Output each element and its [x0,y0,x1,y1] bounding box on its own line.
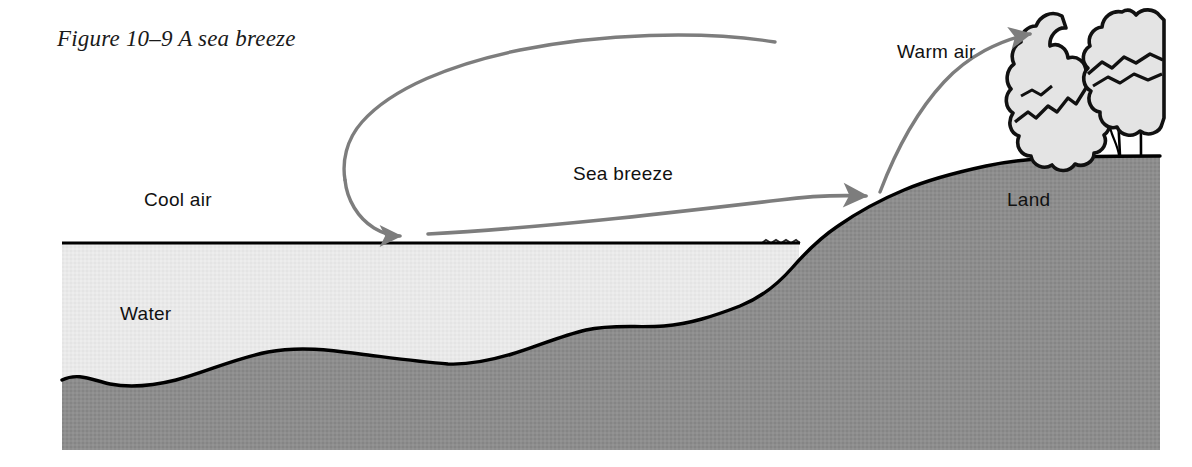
label-land: Land [1007,189,1050,211]
label-warm-air: Warm air [897,41,976,63]
figure-container: Figure 10–9 A sea breeze Warm air Cool a… [0,0,1192,467]
curve-upper-left [344,35,775,180]
sea-breeze-illustration [0,0,1192,467]
label-water: Water [120,303,171,325]
arrow-surface-inflow [428,196,866,234]
label-cool-air: Cool air [144,189,212,211]
arrow-descending-limb [345,180,400,236]
ocean-block [62,156,1160,450]
figure-caption: Figure 10–9 A sea breeze [57,26,296,52]
label-sea-breeze: Sea breeze [573,163,673,185]
